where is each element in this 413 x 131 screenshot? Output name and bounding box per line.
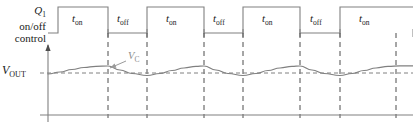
axes-group [40,44,413,122]
t-on-segment-label: ton [262,12,273,28]
waveform-svg-canvas [0,0,413,131]
vc-ripple-curve [48,66,413,76]
q1-control-line-2: on/off [15,20,46,32]
switching-regulator-waveform-figure: Q1 on/off control VOUT VC tontofftontoff… [0,0,413,131]
t-off-segment-label: toff [310,12,322,28]
t-off-segment-label: toff [213,12,225,28]
vc-leader-arrowhead-icon [110,63,116,68]
vc-annotation-leader [110,61,126,68]
q1-control-line-1: Q1 [15,4,46,20]
t-on-segment-label: ton [166,12,177,28]
t-off-segment-label: toff [117,12,129,28]
vc-curve-label: VC [128,50,139,64]
t-on-segment-label: ton [359,12,370,28]
q1-control-line-3: control [15,32,46,44]
vout-axis-label: VOUT [2,64,26,80]
y-axis-arrowhead-icon [45,44,50,51]
toff-bracket-caps [108,29,413,37]
q1-control-label: Q1 on/off control [15,4,46,44]
t-on-segment-label: ton [72,12,83,28]
